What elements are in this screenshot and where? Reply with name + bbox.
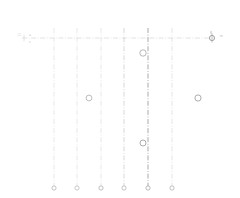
technical-drawing [0, 0, 240, 198]
left-sub-label: s [29, 41, 31, 44]
marker-circle-2 [86, 95, 92, 101]
marker-circle-3 [195, 95, 201, 101]
left-dimension-label: = [29, 34, 31, 38]
right-dimension-label: 8 [210, 32, 212, 36]
marker-circle-4 [140, 140, 146, 146]
base-node-6 [170, 186, 174, 190]
base-node-4 [122, 186, 126, 190]
drawing-canvas: □ = s 8 m [0, 0, 240, 198]
base-node-5 [146, 186, 150, 190]
left-id-label: □ [18, 33, 21, 37]
right-unit-label: m [220, 35, 223, 38]
base-node-3 [99, 186, 103, 190]
marker-circle-1 [140, 50, 146, 56]
base-node-2 [75, 186, 79, 190]
base-node-1 [52, 186, 56, 190]
